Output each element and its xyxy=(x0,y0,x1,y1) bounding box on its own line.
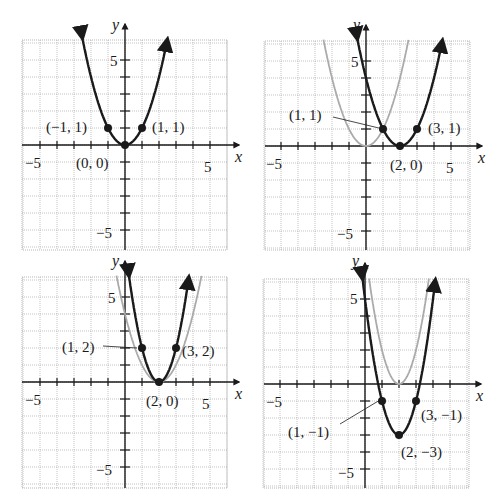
point-label: (1, 1) xyxy=(152,119,185,136)
y-tick-label-5: 5 xyxy=(351,54,359,70)
x-tick-label-neg5: −5 xyxy=(25,155,41,171)
x-axis-label: x xyxy=(234,385,242,402)
x-axis-label: x xyxy=(234,148,242,165)
point-label: (1, 2) xyxy=(62,339,95,356)
y-tick-label-5: 5 xyxy=(108,290,116,306)
point-label: (−1, 1) xyxy=(46,119,87,136)
panel-top-left-labels: y x −5 5 5 −5 (−1, 1) (0, 0) (1, 1) xyxy=(25,16,242,241)
x-tick-label-neg5: −5 xyxy=(25,392,41,408)
x-tick-label-neg5: −5 xyxy=(266,156,282,172)
y-tick-label-neg5: −5 xyxy=(96,462,112,478)
point-label: (3, 1) xyxy=(428,120,461,137)
panel-bottom-left-labels: y x −5 5 5 −5 (1, 2) (2, 0) (3, 2) xyxy=(25,252,242,478)
y-axis-label: y xyxy=(351,16,361,34)
point-label: (1, −1) xyxy=(288,424,329,441)
y-tick-label-neg5: −5 xyxy=(338,465,354,481)
labels-layer: y x −5 5 5 −5 (−1, 1) (0, 0) (1, 1) y x … xyxy=(0,0,503,502)
x-tick-label-5: 5 xyxy=(202,396,210,412)
point-label: (2, 0) xyxy=(390,157,423,174)
x-tick-label-neg5: −5 xyxy=(266,394,282,410)
y-tick-label-5: 5 xyxy=(350,291,358,307)
point-label: (2, 0) xyxy=(146,393,179,410)
y-tick-label-neg5: −5 xyxy=(337,226,353,242)
point-label: (3, 2) xyxy=(182,343,215,360)
x-tick-label-5: 5 xyxy=(204,159,212,175)
y-tick-label-5: 5 xyxy=(110,53,118,69)
y-axis-label: y xyxy=(110,252,120,270)
y-axis-label: y xyxy=(350,252,360,270)
point-label: (2, −3) xyxy=(401,444,442,461)
x-tick-label-5: 5 xyxy=(446,160,454,176)
panel-top-right-labels: y x −5 5 5 −5 (1, 1) (2, 0) (3, 1) xyxy=(266,16,485,242)
point-label: (0, 0) xyxy=(76,155,109,172)
panel-bottom-right-labels: y x −5 5 −5 (1, −1) (2, −3) (3, −1) xyxy=(266,252,483,481)
x-axis-label: x xyxy=(477,149,485,166)
y-tick-label-neg5: −5 xyxy=(96,225,112,241)
point-label: (3, −1) xyxy=(421,407,462,424)
point-label: (1, 1) xyxy=(289,107,322,124)
y-axis-label: y xyxy=(110,16,120,34)
x-axis-label: x xyxy=(475,387,483,404)
